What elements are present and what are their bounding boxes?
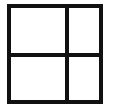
cell-top-left [11,8,65,53]
cell-top-right [69,8,99,53]
cell-bottom-left [11,57,65,100]
window-grid-diagram [7,4,103,104]
cell-bottom-right [69,57,99,100]
